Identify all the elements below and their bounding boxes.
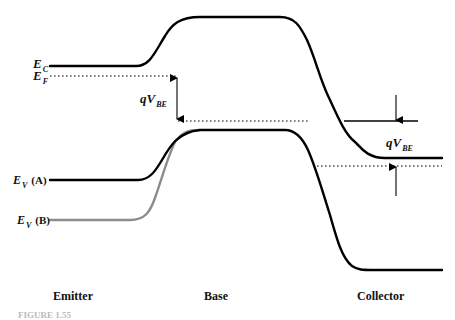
ev-a-sub: V	[22, 181, 27, 190]
ef-label-sub: F	[43, 77, 48, 86]
qvbe-label-right: qVBE	[386, 136, 413, 149]
region-collector: Collector	[357, 290, 404, 302]
qvbe-left-main: qV	[140, 91, 155, 106]
ev-a-tag: (A)	[31, 174, 46, 186]
figure-caption: FIGURE 1.55	[18, 311, 71, 320]
valence-band-b-curve	[50, 130, 200, 220]
qvbe-label-left: qVBE	[140, 92, 167, 105]
qvbe-right-main: qV	[386, 135, 401, 150]
ev-b-sub: V	[26, 221, 31, 230]
region-base: Base	[204, 290, 228, 302]
ev-b-label: EV(B)	[17, 214, 50, 226]
conduction-band-curve	[50, 17, 442, 158]
ef-label: EF	[33, 69, 48, 82]
valence-band-a-curve	[50, 130, 442, 270]
region-emitter: Emitter	[53, 290, 93, 302]
ef-label-main: E	[33, 68, 42, 83]
qvbe-right-sub: BE	[402, 144, 413, 153]
ev-b-main: E	[17, 213, 25, 227]
qvbe-left-sub: BE	[156, 100, 167, 109]
ev-a-main: E	[13, 173, 21, 187]
ev-a-label: EV(A)	[13, 174, 47, 186]
ev-b-tag: (B)	[35, 214, 50, 226]
